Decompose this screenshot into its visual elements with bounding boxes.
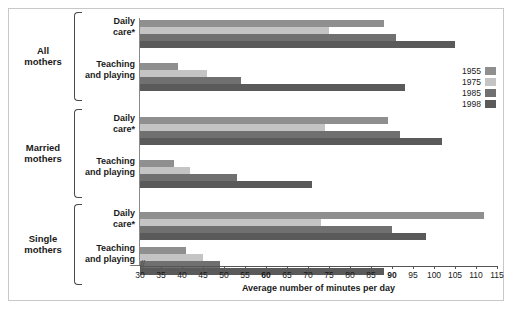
- x-axis-tick: [413, 266, 414, 269]
- x-axis-tick: [392, 266, 393, 269]
- x-axis-tick: [455, 266, 456, 269]
- bar: [140, 70, 207, 77]
- row-label-line: Teaching: [61, 59, 135, 70]
- bar: [140, 27, 329, 34]
- x-axis-tick-label: 70: [303, 270, 312, 280]
- row-label-line: and playing: [61, 167, 135, 178]
- x-axis-tick-label: 40: [177, 270, 186, 280]
- x-axis-tick: [161, 266, 162, 269]
- x-axis-tick-label: 35: [156, 270, 165, 280]
- legend-label: 1955: [462, 66, 481, 76]
- legend-item: 1955: [440, 66, 496, 76]
- x-axis-tick-label: 95: [408, 270, 417, 280]
- row-label: Teachingand playing: [61, 243, 135, 264]
- x-axis-tick-label: 110: [469, 270, 483, 280]
- x-axis-tick: [350, 266, 351, 269]
- legend-item: 1985: [440, 88, 496, 98]
- x-axis-tick-label: 85: [366, 270, 375, 280]
- x-axis-title: Average number of minutes per day: [140, 283, 497, 293]
- row-label-column: Dailycare*Teachingand playingDailycare*T…: [55, 18, 135, 266]
- bar: [140, 219, 321, 226]
- x-axis-tick-label: 90: [387, 270, 396, 280]
- bar: [140, 117, 388, 124]
- bar: [140, 181, 312, 188]
- x-axis-tick-label: 115: [490, 270, 504, 280]
- x-axis-tick-label: 55: [240, 270, 249, 280]
- x-axis-line: [140, 266, 497, 267]
- row-label-line: care*: [61, 219, 135, 230]
- plot-area: [140, 18, 497, 266]
- x-axis-tick: [371, 266, 372, 269]
- bar: [140, 226, 392, 233]
- x-axis-tick: [245, 266, 246, 269]
- bar: [140, 84, 405, 91]
- x-axis-tick: [182, 266, 183, 269]
- row-label-line: and playing: [61, 70, 135, 81]
- chart-page: AllmothersMarriedmothersSinglemothers Da…: [0, 0, 514, 311]
- bar: [140, 254, 203, 261]
- bar: [140, 77, 241, 84]
- x-axis-tick-label: 75: [324, 270, 333, 280]
- row-label-line: Teaching: [61, 156, 135, 167]
- x-axis-tick-label: 60: [261, 270, 270, 280]
- x-axis-tick: [329, 266, 330, 269]
- row-label: Teachingand playing: [61, 59, 135, 80]
- x-axis-tick-label: 65: [282, 270, 291, 280]
- row-label-line: Daily: [61, 16, 135, 27]
- bar: [140, 212, 484, 219]
- bar: [140, 124, 325, 131]
- x-axis-tick-label: 80: [345, 270, 354, 280]
- legend-swatch: [485, 100, 496, 108]
- bar: [140, 41, 455, 48]
- legend-swatch: [485, 89, 496, 97]
- bar: [140, 160, 174, 167]
- x-axis-tick: [224, 266, 225, 269]
- bar: [140, 167, 190, 174]
- x-axis-tick: [308, 266, 309, 269]
- row-label-line: Teaching: [61, 243, 135, 254]
- bar: [140, 174, 237, 181]
- legend-label: 1998: [462, 99, 481, 109]
- x-axis-tick: [140, 266, 141, 269]
- row-label-line: care*: [61, 124, 135, 135]
- row-label-line: and playing: [61, 254, 135, 265]
- bar: [140, 233, 426, 240]
- bar: [140, 20, 384, 27]
- bar: [140, 34, 396, 41]
- legend-label: 1975: [462, 77, 481, 87]
- x-axis-tick-label: 105: [448, 270, 462, 280]
- row-label: Teachingand playing: [61, 156, 135, 177]
- legend-swatch: [485, 78, 496, 86]
- x-axis-tick: [203, 266, 204, 269]
- bar: [140, 138, 442, 145]
- row-label: Dailycare*: [61, 208, 135, 229]
- x-axis-tick-label: 50: [219, 270, 228, 280]
- row-label: Dailycare*: [61, 113, 135, 134]
- x-axis-tick: [287, 266, 288, 269]
- x-axis-tick-label: 45: [198, 270, 207, 280]
- legend-item: 1998: [440, 99, 496, 109]
- bar: [140, 131, 400, 138]
- row-label-line: Daily: [61, 113, 135, 124]
- legend-item: 1975: [440, 77, 496, 87]
- bar: [140, 63, 178, 70]
- x-axis-tick: [476, 266, 477, 269]
- bar: [140, 247, 186, 254]
- x-axis-tick: [266, 266, 267, 269]
- row-label-line: Daily: [61, 208, 135, 219]
- chart-legend: 1955197519851998: [440, 66, 496, 110]
- x-axis-tick: [497, 266, 498, 269]
- row-label-line: care*: [61, 27, 135, 38]
- row-label: Dailycare*: [61, 16, 135, 37]
- legend-swatch: [485, 67, 496, 75]
- x-axis-tick-label: 30: [135, 270, 144, 280]
- x-axis-tick: [434, 266, 435, 269]
- legend-label: 1985: [462, 88, 481, 98]
- x-axis-tick-label: 100: [427, 270, 441, 280]
